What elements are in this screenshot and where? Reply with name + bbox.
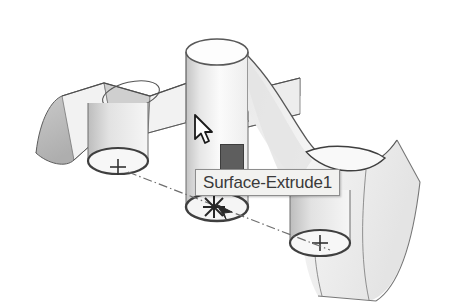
cursor-arrow-icon <box>195 115 212 143</box>
vertical-cylinder-upper[interactable] <box>186 39 248 122</box>
entity-name-tooltip: Surface-Extrude1 <box>195 169 340 196</box>
arrow-pointer-cursor <box>193 114 215 146</box>
cylinder-left[interactable] <box>88 103 148 175</box>
cylinder-upper-top-ellipse <box>186 39 248 65</box>
model-viewport[interactable]: Surface-Extrude1 <box>0 0 449 308</box>
face-selection-swatch[interactable] <box>220 144 244 170</box>
entity-tooltip-label: Surface-Extrude1 <box>203 174 332 191</box>
